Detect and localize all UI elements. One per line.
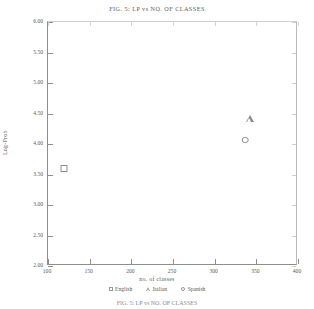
y-axis-tick-label: 3.50 (19, 171, 43, 177)
legend-label: Spanish (188, 286, 206, 292)
y-axis-tick-label: 5.50 (19, 49, 43, 55)
y-axis-tick-label: 6.00 (19, 18, 43, 24)
y-axis-tick (48, 83, 53, 84)
x-axis-tick (298, 259, 299, 264)
y-axis-tick-right (292, 53, 296, 54)
y-axis-tick (48, 236, 53, 237)
triangle-marker-icon (246, 115, 254, 122)
y-axis-tick-right (292, 236, 296, 237)
legend-label: Italian (153, 286, 167, 292)
y-axis-tick (48, 144, 53, 145)
x-axis-tick (173, 259, 174, 264)
circle-marker-icon (242, 137, 249, 144)
y-axis-tick-right (292, 144, 296, 145)
y-axis-tick (48, 205, 53, 206)
square-marker-icon (60, 165, 67, 172)
y-axis-tick (48, 266, 53, 267)
x-axis-tick (215, 259, 216, 264)
cut-off-caption: FIG. 5: LP vs NO. OF CLASSES (0, 300, 314, 309)
y-axis-tick-label: 4.00 (19, 140, 43, 146)
x-axis-tick-label: 200 (115, 268, 145, 274)
x-axis-tick-top (131, 22, 132, 26)
x-axis-tick-top (90, 22, 91, 26)
y-axis-tick-right (292, 83, 296, 84)
plot-area (47, 21, 297, 265)
legend-label: English (115, 286, 132, 292)
x-axis-tick-label: 300 (199, 268, 229, 274)
x-axis-tick-label: 400 (282, 268, 312, 274)
y-axis-tick-right (292, 175, 296, 176)
y-axis-title: Log-Prob (2, 130, 8, 155)
y-axis-tick-right (292, 266, 296, 267)
y-axis-tick-label: 4.50 (19, 110, 43, 116)
y-axis-tick (48, 175, 53, 176)
data-point-spanish (242, 129, 249, 147)
y-axis-tick-label: 2.50 (19, 232, 43, 238)
chart-legend: EnglishItalianSpanish (0, 286, 314, 292)
x-axis-tick-label: 350 (240, 268, 270, 274)
x-axis-tick-top (215, 22, 216, 26)
x-axis-tick (90, 259, 91, 264)
y-axis-tick-right (292, 205, 296, 206)
x-axis-tick (131, 259, 132, 264)
x-axis-tick-label: 150 (74, 268, 104, 274)
y-axis-tick-right (292, 22, 296, 23)
data-point-italian (246, 108, 254, 126)
triangle-marker-icon (146, 287, 150, 291)
x-axis-tick-label: 100 (32, 268, 62, 274)
legend-item-english[interactable]: English (109, 286, 133, 292)
data-point-english (60, 158, 67, 176)
figure-container: FIG. 5: LP vs NO. OF CLASSES 2.002.503.0… (0, 0, 314, 309)
y-axis-tick (48, 114, 53, 115)
y-axis-tick (48, 53, 53, 54)
x-axis-title: no. of classes (0, 276, 314, 282)
x-axis-tick (256, 259, 257, 264)
y-axis-tick-right (292, 114, 296, 115)
x-axis-tick-top (173, 22, 174, 26)
x-axis-tick-label: 250 (157, 268, 187, 274)
x-axis-tick-top (48, 22, 49, 26)
legend-item-spanish[interactable]: Spanish (181, 286, 205, 292)
circle-marker-icon (181, 287, 185, 291)
x-axis-tick-top (256, 22, 257, 26)
x-axis-tick (48, 259, 49, 264)
y-axis-tick-label: 3.00 (19, 201, 43, 207)
legend-item-italian[interactable]: Italian (146, 286, 167, 292)
chart-title: FIG. 5: LP vs NO. OF CLASSES (0, 5, 314, 12)
x-axis-tick-top (298, 22, 299, 26)
square-marker-icon (109, 287, 113, 291)
y-axis-tick-label: 5.00 (19, 79, 43, 85)
